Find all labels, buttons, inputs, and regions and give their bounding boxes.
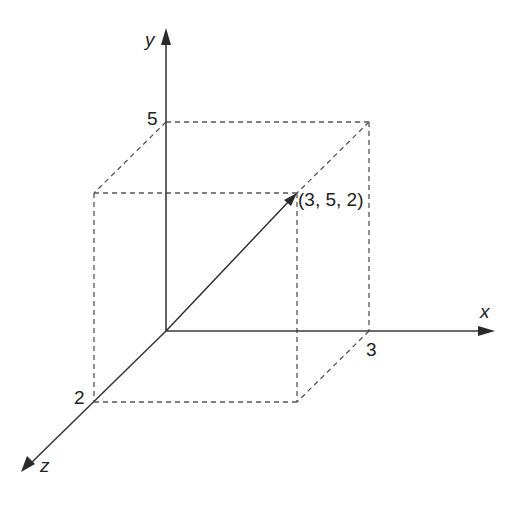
z-axis-label: z — [39, 455, 50, 476]
box-top-left-depth-edge — [94, 122, 166, 193]
z-axis — [28, 331, 166, 466]
vector-line — [166, 200, 290, 331]
box-bottom-right-depth-edge — [297, 331, 369, 402]
position-vector — [166, 193, 297, 331]
y-tick-label: 5 — [147, 108, 158, 129]
x-axis-arrow-icon — [478, 326, 495, 336]
point-label: (3, 5, 2) — [298, 189, 363, 210]
y-axis-label: y — [143, 29, 156, 50]
y-axis-arrow-icon — [161, 28, 171, 45]
x-axis-label: x — [479, 301, 491, 322]
3d-coordinate-diagram: y x z 5 3 2 (3, 5, 2) — [0, 0, 510, 510]
box-top-right-depth-edge — [297, 122, 369, 193]
z-axis-arrow-icon — [21, 456, 35, 472]
x-tick-label: 3 — [366, 339, 377, 360]
z-tick-label: 2 — [74, 387, 85, 408]
axes — [21, 28, 495, 472]
